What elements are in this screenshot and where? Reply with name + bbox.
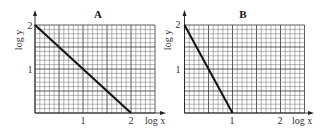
panel-title-a: A	[94, 8, 102, 20]
y-tick-1-a: 1	[28, 64, 33, 75]
y-arrow-icon	[183, 10, 187, 16]
panel-title-b: B	[239, 8, 247, 20]
y-tick-2-b: 2	[176, 19, 181, 30]
panel-b: B 2 1 1 2 log x log y	[162, 8, 314, 126]
x-tick-2-b: 2	[278, 115, 283, 126]
y-arrow-icon	[33, 10, 37, 16]
panel-a: A 2 1 1 2 log x log y	[13, 8, 166, 126]
grid-a	[35, 25, 155, 113]
y-tick-2-a: 2	[28, 20, 33, 31]
x-label-b: log x	[292, 115, 312, 126]
x-tick-2-a: 2	[129, 115, 134, 126]
y-label-a: log y	[13, 30, 24, 50]
axes-a	[33, 10, 166, 115]
axes-b	[183, 10, 315, 115]
figure: A 2 1 1 2 log x log y B 2 1 1 2 log x lo…	[0, 0, 323, 133]
x-tick-1-a: 1	[81, 115, 86, 126]
y-tick-1-b: 1	[176, 64, 181, 75]
y-label-b: log y	[162, 30, 173, 50]
grid-b	[185, 25, 305, 113]
x-tick-1-b: 1	[230, 115, 235, 126]
x-label-a: log x	[145, 115, 165, 126]
